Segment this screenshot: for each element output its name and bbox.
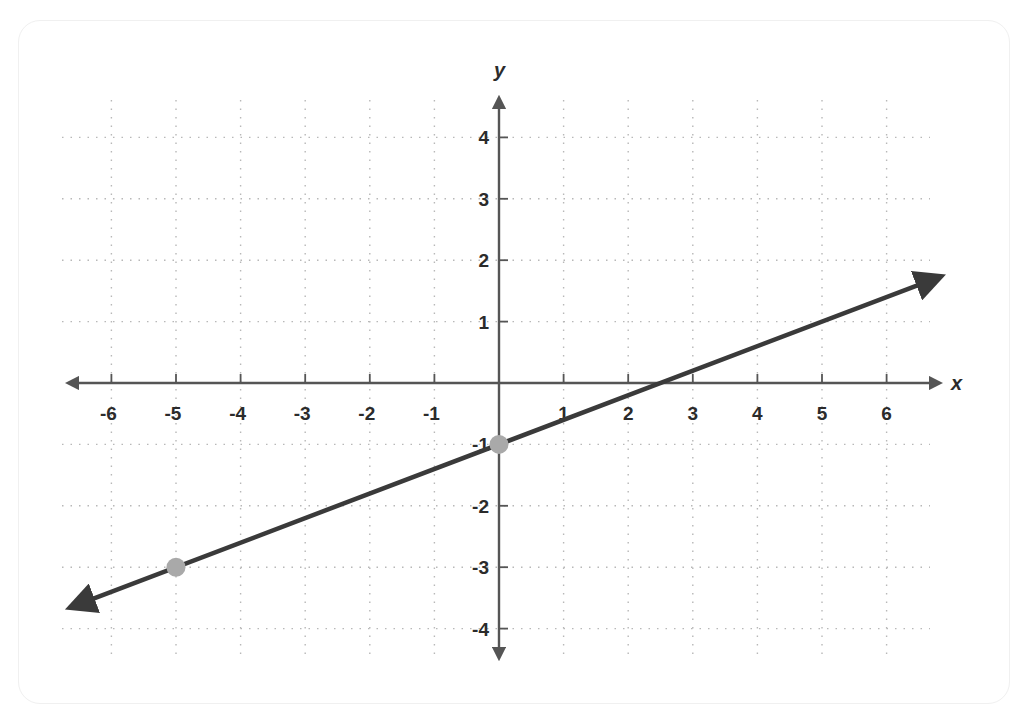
data-point: [167, 558, 186, 577]
x-tick-label: 3: [688, 403, 699, 424]
x-tick-label: -5: [165, 403, 182, 424]
y-tick-label: 3: [478, 189, 489, 210]
y-axis-title: y: [493, 59, 506, 81]
data-point: [490, 435, 509, 454]
y-tick-label: -3: [472, 557, 489, 578]
y-tick-label: -4: [472, 619, 489, 640]
x-tick-label: -2: [358, 403, 375, 424]
y-tick-label: 4: [478, 127, 489, 148]
x-axis-title: x: [950, 372, 963, 394]
y-tick-label: 2: [478, 250, 489, 271]
x-tick-label: -4: [229, 403, 246, 424]
y-tick-label: -2: [472, 496, 489, 517]
x-tick-label: 5: [817, 403, 828, 424]
x-tick-label: 4: [752, 403, 763, 424]
grid-lines: [62, 100, 930, 660]
axes: [72, 102, 936, 654]
x-tick-label: -1: [423, 403, 440, 424]
x-tick-label: -3: [294, 403, 311, 424]
x-tick-label: 2: [623, 403, 634, 424]
y-tick-label: 1: [478, 312, 489, 333]
x-tick-label: 6: [881, 403, 892, 424]
coordinate-plane: -6-5-4-3-2-11234564321-1-2-3-4 x y: [0, 0, 1026, 712]
x-tick-label: -6: [100, 403, 117, 424]
